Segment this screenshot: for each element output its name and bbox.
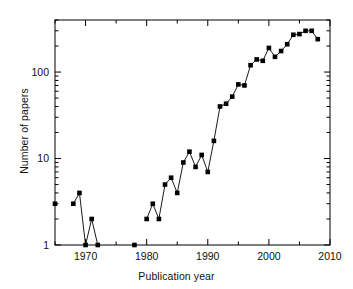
data-point (230, 94, 235, 99)
x-tick-label: 1980 (135, 250, 159, 262)
data-point (53, 201, 58, 206)
data-point (267, 46, 272, 51)
data-point (303, 29, 308, 34)
data-point (279, 49, 284, 54)
data-point (291, 32, 296, 37)
y-axis-title: Number of papers (18, 51, 30, 211)
x-axis-title: Publication year (0, 270, 353, 282)
data-point (273, 55, 278, 60)
data-point (248, 63, 253, 68)
data-point (169, 175, 174, 180)
data-point (187, 149, 192, 154)
data-point (163, 182, 168, 187)
data-point (285, 42, 290, 47)
data-point (83, 243, 88, 248)
x-tick-label: 2000 (257, 250, 281, 262)
data-point (242, 83, 247, 88)
data-point (236, 82, 241, 87)
y-axis-tick-labels: 110100 (31, 66, 49, 251)
x-axis-major-ticks (86, 20, 330, 245)
x-axis-minor-ticks (55, 20, 299, 245)
data-point (205, 170, 210, 175)
x-tick-label: 1990 (196, 250, 220, 262)
data-point (157, 217, 162, 222)
data-point (132, 243, 137, 248)
data-point (260, 58, 265, 63)
data-series-line (73, 31, 317, 245)
data-point (212, 139, 217, 144)
data-point (175, 191, 180, 196)
data-point (309, 29, 314, 34)
data-point (193, 165, 198, 170)
data-point (150, 201, 155, 206)
y-tick-label: 100 (31, 66, 49, 78)
data-point (218, 104, 223, 109)
data-point (144, 217, 149, 222)
axis-frame (55, 20, 330, 245)
chart-plot-area: 110100 19701980199020002010 (0, 0, 353, 289)
data-point (224, 101, 229, 106)
x-axis-tick-labels: 19701980199020002010 (74, 250, 342, 262)
data-point (315, 37, 320, 42)
data-point (254, 57, 259, 62)
x-tick-label: 1970 (74, 250, 98, 262)
chart-figure: 110100 19701980199020002010 Publication … (0, 0, 353, 289)
data-point (77, 191, 82, 196)
data-point (181, 160, 186, 165)
series-segment (147, 31, 318, 219)
data-point (95, 243, 100, 248)
y-tick-label: 1 (43, 239, 49, 251)
data-point (199, 153, 204, 158)
y-tick-label: 10 (37, 152, 49, 164)
data-point (89, 217, 94, 222)
data-point (297, 32, 302, 37)
series-segment (73, 193, 97, 245)
y-axis-minor-ticks (55, 20, 330, 219)
x-tick-label: 2010 (318, 250, 342, 262)
data-series-markers (53, 29, 320, 248)
data-point (71, 201, 76, 206)
